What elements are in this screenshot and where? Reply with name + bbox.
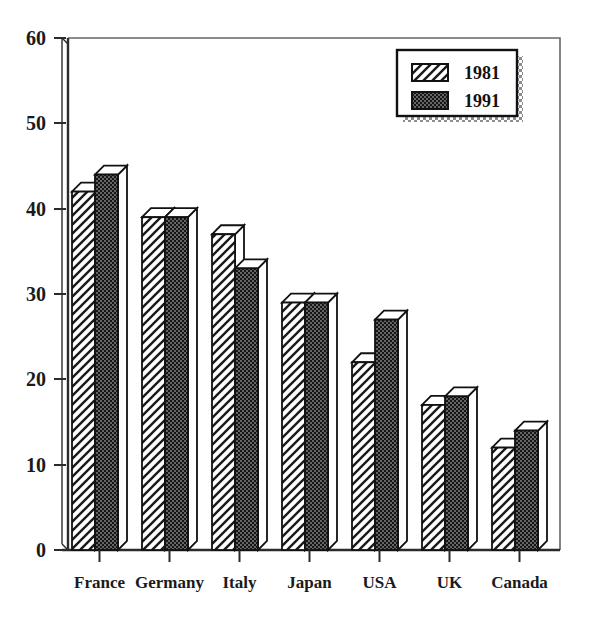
bar-side-face [188,208,197,550]
bar-front-face [282,303,305,550]
y-tick-label-0: 0 [36,539,46,561]
bar-side-face [258,259,267,550]
chart-canvas: 60 50 40 30 20 10 [0,0,592,621]
x-label-usa: USA [362,573,397,592]
bar-canada-1991 [515,422,547,550]
y-tick-label-30: 30 [26,283,46,305]
bar-usa-1991 [375,311,407,550]
solid-dark-swatch-icon [412,92,448,109]
bar-front-face [492,448,515,550]
bar-germany-1991 [165,208,197,550]
y-tick-30: 30 [26,283,66,305]
bar-side-face [328,294,337,550]
bar-front-face [352,362,375,550]
bar-front-face [445,396,468,550]
bar-front-face [375,320,398,550]
x-label-germany: Germany [135,573,204,592]
y-tick-label-50: 50 [26,112,46,134]
bar-side-face [118,166,127,550]
y-tick-label-20: 20 [26,368,46,390]
y-tick-10: 10 [26,454,66,476]
bar-front-face [422,405,445,550]
bar-italy-1991 [235,259,267,550]
bar-side-face [468,387,477,550]
y-tick-0: 0 [36,539,62,561]
bar-side-face [538,422,547,550]
bar-front-face [212,234,235,550]
x-axis: FranceGermanyItalyJapanUSAUKCanada [74,550,548,592]
bar-france-1991 [95,166,127,550]
bar-front-face [235,268,258,550]
y-axis: 60 50 40 30 20 10 [26,27,66,561]
bar-front-face [95,175,118,550]
hatch-swatch-icon [412,64,448,81]
y-tick-50: 50 [26,112,66,134]
bar-front-face [142,217,165,550]
x-label-uk: UK [437,573,463,592]
y-tick-label-40: 40 [26,198,46,220]
x-label-france: France [74,573,125,592]
bars-layer [72,166,547,550]
y-tick-label-60: 60 [26,27,46,49]
legend-label-1991: 1991 [464,91,500,111]
y-tick-label-10: 10 [26,454,46,476]
y-tick-40: 40 [26,198,66,220]
bar-side-face [398,311,407,550]
bar-japan-1991 [305,294,337,550]
x-label-japan: Japan [287,573,332,592]
x-label-italy: Italy [223,573,258,592]
bar-chart: 60 50 40 30 20 10 [0,0,592,621]
y-tick-20: 20 [26,368,66,390]
bar-front-face [72,192,95,550]
y-tick-60: 60 [26,27,66,49]
legend: 1981 1991 [397,50,523,122]
bar-front-face [515,431,538,550]
bar-uk-1991 [445,387,477,550]
bar-front-face [305,303,328,550]
legend-label-1981: 1981 [464,63,500,83]
x-label-canada: Canada [491,573,548,592]
bar-front-face [165,217,188,550]
